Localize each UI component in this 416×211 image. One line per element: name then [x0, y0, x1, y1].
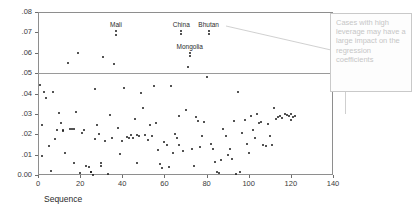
x-tick-mark	[207, 175, 208, 178]
data-point	[130, 134, 132, 136]
data-point	[218, 172, 220, 174]
data-point	[239, 171, 241, 173]
data-point	[149, 124, 151, 126]
data-point	[172, 152, 174, 154]
x-tick-mark	[249, 175, 250, 178]
data-point	[102, 56, 104, 58]
callout-stem	[345, 92, 346, 114]
data-point	[241, 132, 243, 134]
data-point	[117, 127, 119, 129]
point-label-mongolia: Mongolia	[177, 43, 203, 50]
x-tick-mark	[164, 175, 165, 178]
data-point	[225, 135, 227, 137]
data-point	[75, 111, 77, 113]
data-point	[273, 107, 275, 109]
y-tick-label: 0.00	[17, 171, 32, 179]
callout-box: Cases with high leverage may have a larg…	[330, 13, 412, 92]
data-point	[189, 55, 191, 57]
data-point-highlighted	[115, 30, 117, 32]
data-point	[41, 155, 43, 157]
data-point	[159, 163, 161, 165]
data-point	[271, 144, 273, 146]
data-point	[178, 144, 180, 146]
data-point	[140, 92, 142, 94]
data-point	[121, 140, 123, 142]
data-point	[48, 145, 50, 147]
data-point	[294, 115, 296, 117]
y-tick-label: .06	[22, 49, 32, 57]
point-label-bhutan: Bhutan	[198, 21, 219, 28]
x-tick-label: 60	[150, 180, 178, 188]
data-point	[166, 144, 168, 146]
data-point	[67, 62, 69, 64]
data-point	[144, 134, 146, 136]
data-point	[83, 129, 85, 131]
data-point	[222, 128, 224, 130]
data-point	[92, 174, 94, 176]
data-point	[115, 34, 117, 36]
data-point	[191, 148, 193, 150]
data-point	[104, 140, 106, 142]
point-label-mali: Mali	[110, 21, 122, 28]
data-point	[199, 146, 201, 148]
y-tick-mark	[35, 32, 38, 33]
y-tick-label: .01	[22, 151, 32, 159]
y-tick-mark	[35, 134, 38, 135]
data-point	[41, 124, 43, 126]
data-point	[45, 97, 47, 99]
data-point	[260, 121, 262, 123]
data-point	[197, 120, 199, 122]
data-point	[98, 133, 100, 135]
data-point	[182, 150, 184, 152]
data-point	[39, 84, 41, 86]
y-tick-label: .04	[22, 90, 32, 98]
data-point	[185, 109, 187, 111]
data-point	[288, 115, 290, 117]
data-point	[142, 107, 144, 109]
data-point	[212, 148, 214, 150]
data-point	[252, 129, 254, 131]
data-point	[54, 138, 56, 140]
data-point	[134, 118, 136, 120]
data-point	[56, 129, 58, 131]
data-point	[109, 114, 111, 116]
data-point	[229, 148, 231, 150]
data-point	[43, 91, 45, 93]
data-point	[195, 116, 197, 118]
data-point	[220, 159, 222, 161]
data-point	[79, 172, 81, 174]
data-point	[100, 162, 102, 164]
data-point	[176, 137, 178, 139]
data-point	[123, 87, 125, 89]
data-point	[163, 141, 165, 143]
data-point	[81, 132, 83, 134]
y-tick-mark	[35, 94, 38, 95]
data-point	[180, 33, 182, 35]
x-tick-label: 120	[277, 180, 305, 188]
data-point	[88, 166, 90, 168]
x-tick-label: 40	[108, 180, 136, 188]
y-tick-mark	[35, 53, 38, 54]
x-tick-label: 20	[66, 180, 94, 188]
data-point	[201, 135, 203, 137]
data-point	[73, 128, 75, 130]
data-point	[100, 165, 102, 167]
data-point	[235, 173, 237, 175]
data-point	[237, 91, 239, 93]
y-tick-mark	[35, 114, 38, 115]
data-point	[174, 133, 176, 135]
y-tick-label: .03	[22, 110, 32, 118]
chart-root: MaliChinaBhutanMongolia 0.00.01.02.03.04…	[0, 0, 416, 211]
data-point	[52, 91, 54, 93]
data-point	[275, 118, 277, 120]
data-point-highlighted	[208, 30, 210, 32]
data-point	[187, 66, 189, 68]
data-point	[267, 123, 269, 125]
data-point	[193, 165, 195, 167]
data-point	[119, 153, 121, 155]
data-point	[203, 121, 205, 123]
data-point	[58, 112, 60, 114]
data-point	[90, 171, 92, 173]
x-tick-label: 140	[319, 180, 347, 188]
plot-area: MaliChinaBhutanMongolia	[38, 12, 333, 175]
